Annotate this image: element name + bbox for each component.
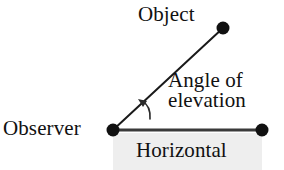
observer-label: Observer [3, 118, 81, 139]
angle-of-elevation-label: Angle of elevation [168, 70, 246, 110]
angle-of-elevation-diagram: Object Observer Horizontal Angle of elev… [0, 0, 284, 170]
horizontal-endpoint-marker [256, 124, 269, 137]
observer-point-marker [107, 124, 120, 137]
angle-of-elevation-label-line2: elevation [168, 90, 246, 110]
angle-of-elevation-label-line1: Angle of [168, 70, 246, 90]
object-label: Object [138, 4, 195, 25]
horizontal-label: Horizontal [136, 140, 227, 161]
object-point-marker [217, 22, 230, 35]
